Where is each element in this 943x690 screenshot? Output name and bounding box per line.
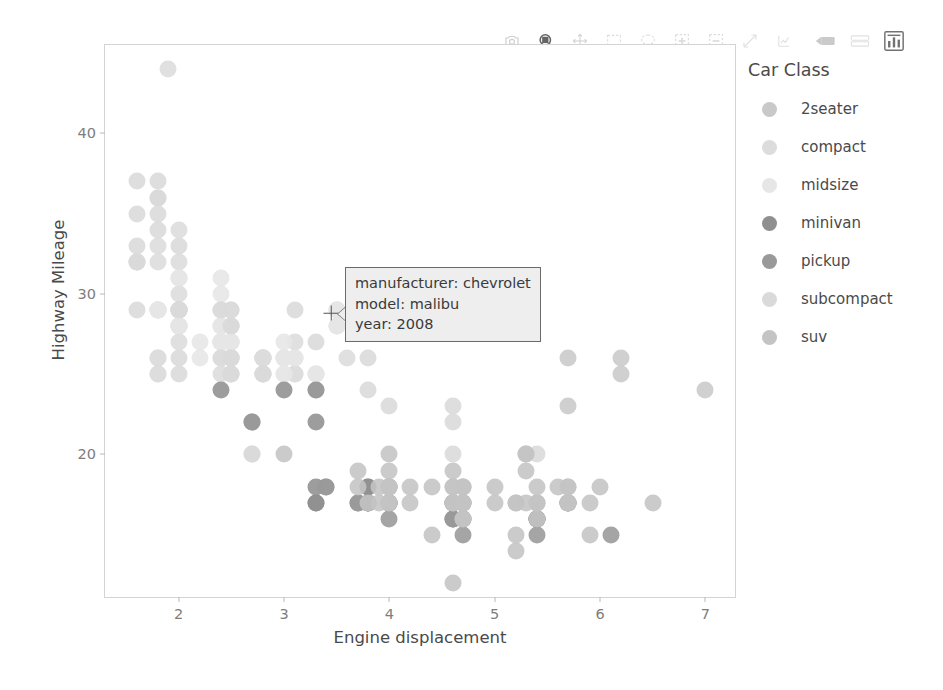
legend-item[interactable]: 2seater	[748, 90, 933, 128]
legend-item[interactable]: compact	[748, 128, 933, 166]
legend-item[interactable]: minivan	[748, 204, 933, 242]
scatter-point[interactable]	[560, 350, 577, 367]
scatter-point[interactable]	[170, 350, 187, 367]
legend-item[interactable]: midsize	[748, 166, 933, 204]
scatter-point[interactable]	[549, 478, 566, 495]
scatter-point[interactable]	[149, 173, 166, 190]
legend-item[interactable]: suv	[748, 318, 933, 356]
scatter-point[interactable]	[276, 350, 293, 367]
scatter-point[interactable]	[528, 526, 545, 543]
scatter-point[interactable]	[613, 350, 630, 367]
scatter-point[interactable]	[581, 494, 598, 511]
scatter-point[interactable]	[444, 398, 461, 415]
scatter-point[interactable]	[128, 173, 145, 190]
scatter-point[interactable]	[149, 301, 166, 318]
scatter-point[interactable]	[170, 366, 187, 383]
scatter-point[interactable]	[212, 334, 229, 351]
hover-compare-icon[interactable]	[843, 26, 877, 56]
legend[interactable]: Car Class 2seatercompactmidsizeminivanpi…	[748, 60, 933, 356]
scatter-point[interactable]	[170, 301, 187, 318]
scatter-point[interactable]	[160, 61, 177, 78]
scatter-point[interactable]	[349, 462, 366, 479]
scatter-point[interactable]	[191, 334, 208, 351]
scatter-point[interactable]	[255, 366, 272, 383]
scatter-point[interactable]	[191, 350, 208, 367]
scatter-point[interactable]	[244, 414, 261, 431]
scatter-point[interactable]	[486, 478, 503, 495]
scatter-point[interactable]	[381, 398, 398, 415]
scatter-point[interactable]	[518, 446, 535, 463]
scatter-point[interactable]	[149, 350, 166, 367]
scatter-point[interactable]	[212, 382, 229, 399]
scatter-point[interactable]	[149, 253, 166, 270]
scatter-point[interactable]	[381, 462, 398, 479]
scatter-point[interactable]	[444, 574, 461, 591]
scatter-point[interactable]	[244, 446, 261, 463]
scatter-point[interactable]	[381, 446, 398, 463]
scatter-point[interactable]	[276, 382, 293, 399]
legend-item[interactable]: subcompact	[748, 280, 933, 318]
scatter-point[interactable]	[697, 382, 714, 399]
scatter-point[interactable]	[307, 414, 324, 431]
scatter-point[interactable]	[528, 510, 545, 527]
scatter-point[interactable]	[149, 366, 166, 383]
scatter-point[interactable]	[128, 301, 145, 318]
scatter-point[interactable]	[339, 350, 356, 367]
scatter-point[interactable]	[307, 494, 324, 511]
scatter-point[interactable]	[560, 494, 577, 511]
scatter-point[interactable]	[276, 446, 293, 463]
scatter-point[interactable]	[307, 382, 324, 399]
scatter-point[interactable]	[212, 269, 229, 286]
scatter-point[interactable]	[170, 285, 187, 302]
scatter-point[interactable]	[318, 478, 335, 495]
scatter-point[interactable]	[507, 494, 524, 511]
scatter-point[interactable]	[255, 350, 272, 367]
scatter-point[interactable]	[602, 526, 619, 543]
scatter-point[interactable]	[644, 494, 661, 511]
legend-items[interactable]: 2seatercompactmidsizeminivanpickupsubcom…	[748, 90, 933, 356]
legend-item[interactable]: pickup	[748, 242, 933, 280]
scatter-point[interactable]	[455, 478, 472, 495]
scatter-point[interactable]	[581, 526, 598, 543]
scatter-point[interactable]	[360, 350, 377, 367]
scatter-point[interactable]	[149, 237, 166, 254]
scatter-point[interactable]	[212, 285, 229, 302]
scatter-point[interactable]	[423, 526, 440, 543]
scatter-point[interactable]	[170, 237, 187, 254]
scatter-point[interactable]	[455, 510, 472, 527]
scatter-point[interactable]	[223, 301, 240, 318]
scatter-point[interactable]	[444, 414, 461, 431]
scatter-point[interactable]	[170, 318, 187, 335]
scatter-point[interactable]	[560, 398, 577, 415]
scatter-point[interactable]	[307, 366, 324, 383]
scatter-point[interactable]	[402, 478, 419, 495]
scatter-point[interactable]	[170, 269, 187, 286]
scatter-point[interactable]	[592, 478, 609, 495]
scatter-point[interactable]	[149, 221, 166, 238]
scatter-point[interactable]	[223, 350, 240, 367]
scatter-point[interactable]	[455, 526, 472, 543]
scatter-point[interactable]	[128, 205, 145, 222]
scatter-point[interactable]	[170, 221, 187, 238]
scatter-point[interactable]	[444, 462, 461, 479]
scatter-point[interactable]	[444, 446, 461, 463]
scatter-point[interactable]	[307, 334, 324, 351]
scatter-point[interactable]	[455, 494, 472, 511]
scatter-point[interactable]	[370, 478, 387, 495]
scatter-point[interactable]	[360, 494, 377, 511]
scatter-point[interactable]	[402, 494, 419, 511]
scatter-point[interactable]	[507, 526, 524, 543]
scatter-point[interactable]	[349, 478, 366, 495]
scatter-point[interactable]	[507, 542, 524, 559]
scatter-point[interactable]	[128, 237, 145, 254]
scatter-point[interactable]	[170, 334, 187, 351]
scatter-point[interactable]	[360, 382, 377, 399]
reset-axes-icon[interactable]	[767, 26, 801, 56]
scatter-point[interactable]	[170, 253, 187, 270]
toggle-spike-lines-icon[interactable]	[809, 26, 843, 56]
scatter-point[interactable]	[528, 478, 545, 495]
scatter-point[interactable]	[223, 318, 240, 335]
scatter-point[interactable]	[286, 301, 303, 318]
scatter-point[interactable]	[486, 494, 503, 511]
plotly-logo-icon[interactable]	[877, 26, 911, 56]
